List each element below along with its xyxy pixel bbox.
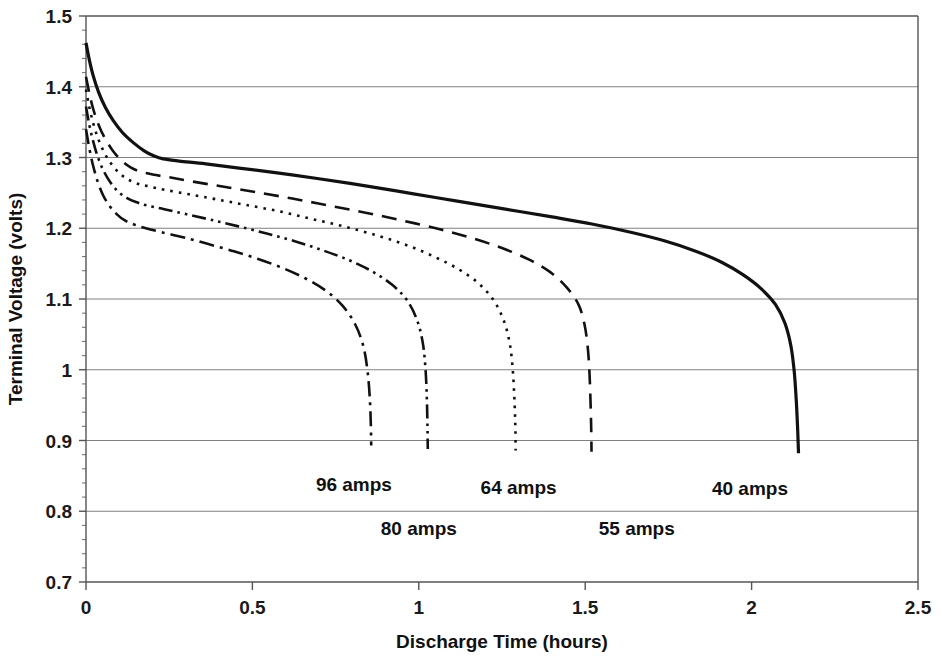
- y-tick-label: 0.9: [46, 431, 72, 452]
- series-label-80-amps: 80 amps: [381, 518, 457, 539]
- y-tick-label: 1.2: [46, 218, 72, 239]
- y-tick-label: 1: [61, 360, 72, 381]
- x-tick-label: 0.5: [239, 597, 266, 618]
- series-label-96-amps: 96 amps: [316, 474, 392, 495]
- y-tick-label: 1.3: [46, 148, 72, 169]
- y-tick-label: 0.7: [46, 572, 72, 593]
- x-tick-label: 1.5: [572, 597, 599, 618]
- y-tick-label: 1.5: [46, 6, 73, 27]
- series-label-64-amps: 64 amps: [481, 477, 557, 498]
- series-label-40-amps: 40 amps: [712, 478, 788, 499]
- y-axis-title: Terminal Voltage (volts): [5, 193, 26, 406]
- x-axis-tick-labels: 00.511.522.5: [81, 597, 932, 618]
- y-tick-label: 1.4: [46, 77, 73, 98]
- x-tick-label: 2.5: [905, 597, 932, 618]
- y-tick-label: 1.1: [46, 289, 73, 310]
- data-curves: [86, 43, 799, 453]
- discharge-curve-chart: 1.51.41.31.21.110.90.80.7 00.511.522.5 4…: [0, 0, 942, 668]
- x-tick-label: 1: [414, 597, 425, 618]
- curve-55-amps: [86, 77, 592, 452]
- x-tick-label: 2: [746, 597, 757, 618]
- curve-64-amps: [86, 90, 516, 451]
- x-tick-label: 0: [81, 597, 92, 618]
- x-axis-title: Discharge Time (hours): [396, 631, 608, 652]
- major-ticks: [79, 16, 918, 590]
- y-axis-tick-labels: 1.51.41.31.21.110.90.80.7: [46, 6, 73, 593]
- gridlines: [86, 87, 918, 512]
- y-tick-label: 0.8: [46, 501, 72, 522]
- series-label-55-amps: 55 amps: [599, 518, 675, 539]
- curve-96-amps: [86, 129, 371, 445]
- curve-40-amps: [86, 43, 799, 453]
- chart-container: 1.51.41.31.21.110.90.80.7 00.511.522.5 4…: [0, 0, 942, 668]
- series-annotations: 40 amps55 amps64 amps80 amps96 amps: [316, 474, 788, 539]
